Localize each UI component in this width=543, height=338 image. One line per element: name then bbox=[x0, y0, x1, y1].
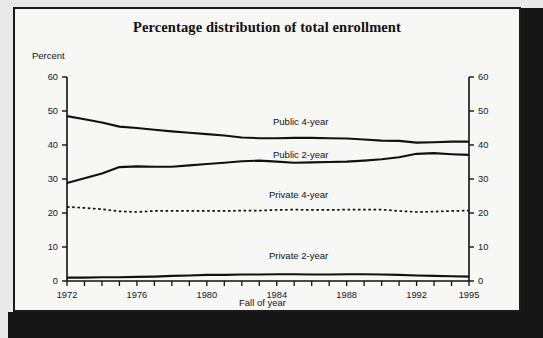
series-line-public-2-year bbox=[67, 153, 469, 183]
y-tick-label-left: 60 bbox=[48, 72, 58, 82]
y-tick-label-right: 20 bbox=[478, 208, 488, 218]
figure-page: Percentage distribution of total enrollm… bbox=[0, 0, 543, 338]
y-tick-label-left: 20 bbox=[48, 208, 58, 218]
y-tick-label-left: 10 bbox=[48, 242, 58, 252]
series-label-public-4-year: Public 4-year bbox=[273, 116, 328, 127]
series-line-public-4-year bbox=[67, 116, 469, 143]
series-line-private-4-year bbox=[67, 207, 469, 212]
page-shadow-bottom bbox=[8, 312, 543, 338]
page-shadow-right bbox=[521, 8, 543, 338]
y-tick-label-right: 10 bbox=[478, 242, 488, 252]
y-tick-label-left: 50 bbox=[48, 106, 58, 116]
x-axis-label: Fall of year bbox=[15, 297, 510, 308]
series-line-private-2-year bbox=[67, 274, 469, 277]
series-label-private-4-year: Private 4-year bbox=[269, 189, 328, 200]
y-tick-label-right: 50 bbox=[478, 106, 488, 116]
y-tick-label-right: 60 bbox=[478, 72, 488, 82]
line-chart-plot: 0010102020303040405050606019721976198019… bbox=[15, 9, 523, 314]
y-tick-label-left: 0 bbox=[53, 276, 58, 286]
y-tick-label-left: 40 bbox=[48, 140, 58, 150]
y-tick-label-right: 40 bbox=[478, 140, 488, 150]
chart-figure: Percentage distribution of total enrollm… bbox=[13, 7, 521, 312]
y-tick-label-right: 0 bbox=[478, 276, 483, 286]
series-label-private-2-year: Private 2-year bbox=[269, 250, 328, 261]
y-tick-label-right: 30 bbox=[478, 174, 488, 184]
series-label-public-2-year: Public 2-year bbox=[273, 149, 328, 160]
y-tick-label-left: 30 bbox=[48, 174, 58, 184]
